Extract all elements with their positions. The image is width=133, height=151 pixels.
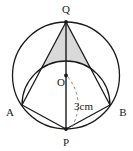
label-q: Q [62,3,70,15]
label-a: A [6,106,14,118]
label-p: P [63,136,69,148]
label-b: B [119,106,126,118]
geometry-figure: Q O A B P 3cm [0,0,133,151]
label-radius-dimension: 3cm [74,100,93,112]
vertex-dot-p [64,127,68,131]
vertex-dot-q [64,20,68,24]
label-o: O [57,76,65,88]
geometry-canvas: Q O A B P 3cm [0,0,133,151]
